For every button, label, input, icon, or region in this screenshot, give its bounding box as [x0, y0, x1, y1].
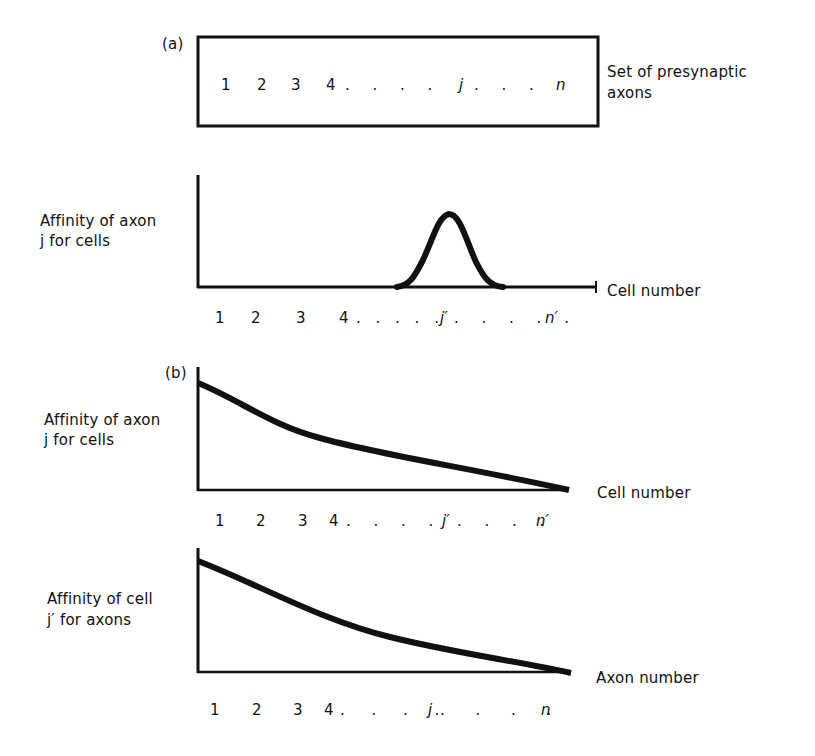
plot-a-gaussian-curve — [397, 214, 503, 287]
tick-3: 3 — [293, 701, 303, 719]
tick-2: 2 — [252, 701, 262, 719]
tick-j-prime: j′ — [442, 512, 450, 530]
axon-index-n: n — [556, 76, 566, 94]
tick-ellipsis-1: . . . . — [340, 701, 450, 719]
axon-index-3: 3 — [291, 76, 301, 94]
figure-graphics — [0, 0, 815, 756]
axon-index-4: 4 — [326, 76, 336, 94]
tick-3: 3 — [296, 309, 306, 327]
plot-a-ylabel-line2: j for cells — [40, 231, 110, 251]
plot-b-top-ylabel-line1: Affinity of axon — [44, 410, 160, 430]
tick-ellipsis-1: . . . . . — [356, 309, 444, 327]
panel-a-tag: (a) — [162, 34, 184, 54]
plot-b-top-ylabel-line2: j for cells — [44, 430, 114, 450]
panel-b-tag: (b) — [165, 363, 187, 383]
axon-index-j: j — [459, 76, 463, 94]
tick-n-prime: n′ — [545, 309, 558, 327]
axon-ellipsis-2: . . . — [474, 76, 543, 94]
tick-3: 3 — [298, 512, 308, 530]
tick-n-prime: n′ — [536, 512, 549, 530]
axon-index-1: 1 — [221, 76, 231, 94]
plot-b-top-gradient-curve — [198, 383, 569, 490]
tick-4: 4 — [329, 512, 339, 530]
plot-a-ylabel-line1: Affinity of axon — [40, 211, 156, 231]
plot-b-bottom-xlabel: Axon number — [596, 668, 699, 688]
axon-ellipsis-1: . . . . — [345, 76, 441, 94]
plot-b-bottom-ylabel-line1: Affinity of cell — [47, 589, 153, 609]
tick-1: 1 — [210, 701, 220, 719]
tick-ellipsis-1: . . . . — [346, 512, 442, 530]
tick-4: 4 — [324, 701, 334, 719]
plot-b-top-xlabel: Cell number — [597, 483, 691, 503]
tick-ellipsis-2: . . . . . — [454, 309, 578, 327]
tick-2: 2 — [251, 309, 261, 327]
tick-n: n — [541, 701, 551, 719]
plot-b-bottom-axes — [197, 548, 570, 673]
plot-b-bottom-ylabel-line2: j′ for axons — [47, 610, 131, 630]
plot-b-bottom-gradient-curve — [198, 561, 571, 673]
axon-index-2: 2 — [257, 76, 267, 94]
presynaptic-set-label-line1: Set of presynaptic — [607, 62, 747, 82]
plot-a-axes — [197, 175, 596, 293]
tick-4: 4 — [339, 309, 349, 327]
tick-1: 1 — [215, 512, 225, 530]
tick-1: 1 — [215, 309, 225, 327]
plot-b-top-axes — [197, 367, 568, 491]
plot-a-xlabel: Cell number — [607, 281, 701, 301]
tick-j: j — [428, 701, 432, 719]
presynaptic-set-label-line2: axons — [607, 83, 652, 103]
tick-2: 2 — [256, 512, 266, 530]
tick-j-prime: j′ — [440, 309, 448, 327]
